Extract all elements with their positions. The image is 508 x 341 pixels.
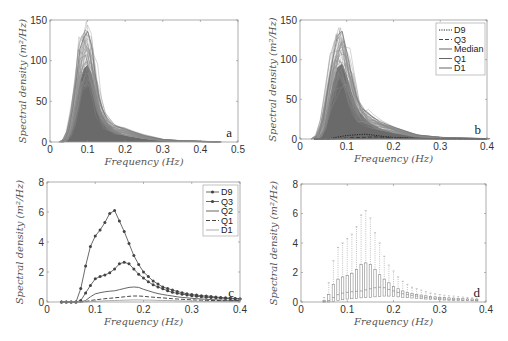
data-marker bbox=[89, 245, 92, 248]
data-marker bbox=[123, 261, 126, 264]
data-marker bbox=[185, 293, 188, 296]
y-tick-label: 8 bbox=[38, 177, 44, 188]
box bbox=[328, 295, 330, 302]
y-tick-label: 0 bbox=[41, 137, 47, 148]
box bbox=[406, 292, 408, 297]
data-marker bbox=[99, 275, 102, 278]
y-tick-label: 6 bbox=[292, 208, 298, 219]
legend-label-d1: D1 bbox=[454, 63, 466, 73]
panel-c: D9Q3Q2Q1D100.10.20.30.402468Frequency (H… bbox=[14, 177, 247, 328]
x-tick-label: 0.3 bbox=[433, 304, 447, 315]
y-tick-label: 0 bbox=[38, 297, 44, 308]
legend-label-q1: Q1 bbox=[221, 216, 233, 226]
data-marker bbox=[210, 296, 213, 299]
x-tick-label: 0 bbox=[298, 304, 304, 315]
x-tick-label: 0 bbox=[297, 141, 303, 152]
data-marker bbox=[113, 268, 116, 271]
box bbox=[411, 293, 413, 298]
data-marker bbox=[103, 274, 106, 277]
y-tick-label: 50 bbox=[36, 96, 48, 107]
y-tick-label: 100 bbox=[30, 55, 47, 66]
data-marker bbox=[166, 289, 169, 292]
panel-a: 00.10.20.30.40.5050100150Frequency (Hz)S… bbox=[17, 15, 245, 168]
data-marker bbox=[214, 296, 217, 299]
y-tick-label: 2 bbox=[38, 267, 44, 278]
data-marker bbox=[137, 273, 140, 276]
y-tick-label: 6 bbox=[38, 207, 44, 218]
data-marker bbox=[142, 277, 145, 280]
panel-letter: b bbox=[475, 122, 482, 137]
x-tick-label: 0.3 bbox=[185, 304, 199, 315]
data-marker bbox=[156, 286, 159, 289]
data-marker bbox=[118, 262, 121, 265]
x-tick-label: 0.4 bbox=[233, 304, 247, 315]
box bbox=[332, 284, 334, 301]
data-marker bbox=[195, 295, 198, 298]
legend: D9Q3MedianQ1D1 bbox=[436, 23, 485, 75]
panel-letter: d bbox=[474, 285, 481, 300]
data-marker bbox=[132, 268, 135, 271]
x-axis-label: Frequency (Hz) bbox=[353, 153, 433, 164]
box bbox=[346, 275, 348, 299]
x-tick-label: 0.4 bbox=[479, 304, 493, 315]
box bbox=[337, 279, 339, 300]
x-tick-label: 0.1 bbox=[81, 144, 95, 155]
data-marker bbox=[161, 287, 164, 290]
data-marker bbox=[224, 297, 227, 300]
x-axis-label: Frequency (Hz) bbox=[353, 316, 433, 327]
box bbox=[452, 298, 454, 300]
x-tick-label: 0.5 bbox=[231, 144, 245, 155]
x-tick-label: 0.3 bbox=[433, 141, 447, 152]
data-marker bbox=[200, 295, 203, 298]
box bbox=[402, 291, 404, 297]
box bbox=[369, 264, 371, 297]
data-marker bbox=[94, 235, 97, 238]
data-marker bbox=[234, 297, 237, 300]
panel-letter: c bbox=[228, 285, 234, 300]
data-marker bbox=[103, 221, 106, 224]
x-tick-label: 0.4 bbox=[193, 144, 207, 155]
panel-b: D9Q3MedianQ1D100.10.20.30.4050100150Freq… bbox=[267, 15, 494, 165]
data-marker bbox=[118, 220, 121, 223]
x-tick-label: 0.3 bbox=[156, 144, 170, 155]
x-tick-label: 0.2 bbox=[387, 141, 401, 152]
x-tick-label: 0.1 bbox=[340, 304, 354, 315]
legend-marker bbox=[211, 190, 214, 193]
data-marker bbox=[84, 265, 87, 268]
legend-label-q2: Q2 bbox=[221, 206, 233, 216]
x-axis-label: Frequency (Hz) bbox=[103, 316, 183, 327]
data-marker bbox=[99, 229, 102, 232]
box bbox=[365, 263, 367, 298]
x-tick-label: 0.2 bbox=[137, 304, 151, 315]
x-axis-label: Frequency (Hz) bbox=[103, 156, 183, 167]
x-tick-label: 0.1 bbox=[88, 304, 102, 315]
data-marker bbox=[132, 254, 135, 257]
y-tick-label: 0 bbox=[292, 297, 298, 308]
panel-letter: a bbox=[226, 125, 232, 140]
data-marker bbox=[181, 293, 184, 296]
legend-label-q3: Q3 bbox=[454, 35, 466, 45]
data-marker bbox=[89, 284, 92, 287]
legend-label-median: Median bbox=[454, 44, 484, 54]
y-tick-label: 4 bbox=[38, 237, 44, 248]
data-marker bbox=[176, 292, 179, 295]
y-tick-label: 100 bbox=[280, 54, 297, 65]
legend-label-q3: Q3 bbox=[221, 197, 233, 207]
y-tick-label: 150 bbox=[30, 15, 47, 26]
box bbox=[351, 273, 353, 299]
panel-d: 00.10.20.30.402468Frequency (Hz)Spectral… bbox=[268, 179, 493, 328]
data-marker bbox=[147, 280, 150, 283]
figure: 00.10.20.30.40.5050100150Frequency (Hz)S… bbox=[0, 0, 508, 341]
data-marker bbox=[79, 287, 82, 290]
data-marker bbox=[156, 283, 159, 286]
data-marker bbox=[137, 263, 140, 266]
y-tick-label: 50 bbox=[286, 94, 298, 105]
data-marker bbox=[113, 209, 116, 212]
legend-label-q1: Q1 bbox=[454, 54, 466, 64]
y-axis-label: Spectral density (m²/Hz) bbox=[14, 180, 25, 305]
legend: D9Q3Q2Q1D1 bbox=[203, 185, 238, 236]
box bbox=[374, 270, 376, 297]
data-marker bbox=[128, 242, 131, 245]
legend-label-d9: D9 bbox=[454, 25, 466, 35]
box bbox=[397, 289, 399, 297]
